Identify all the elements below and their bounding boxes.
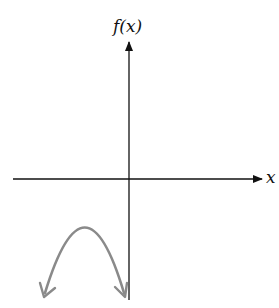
parabola-curve: [45, 228, 124, 294]
graph-canvas: [0, 0, 279, 308]
x-axis-label: x: [266, 167, 276, 187]
y-axis-label: f(x): [113, 16, 142, 36]
